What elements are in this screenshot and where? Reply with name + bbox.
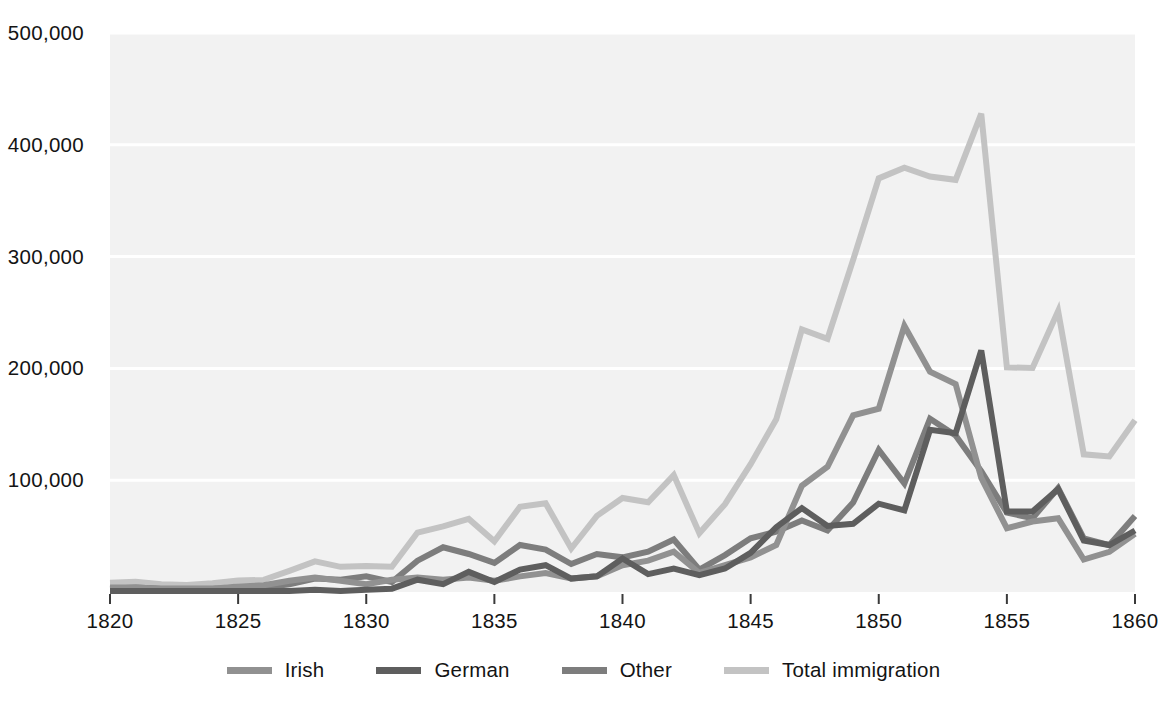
x-axis-tick-label: 1850 bbox=[855, 609, 902, 633]
x-axis: 182018251830183518401845185018551860 bbox=[0, 0, 1167, 707]
legend-item-german[interactable]: German bbox=[376, 658, 509, 682]
x-axis-tick-label: 1825 bbox=[215, 609, 262, 633]
x-axis-tick-label: 1820 bbox=[87, 609, 134, 633]
legend-label: German bbox=[434, 658, 509, 682]
legend-item-irish[interactable]: Irish bbox=[227, 658, 325, 682]
legend-swatch-icon bbox=[724, 667, 769, 674]
immigration-line-chart: 500,000400,000300,000200,000100,000 1820… bbox=[0, 0, 1167, 707]
legend-item-other[interactable]: Other bbox=[562, 658, 672, 682]
x-axis-tick-label: 1860 bbox=[1112, 609, 1159, 633]
x-axis-tick-label: 1845 bbox=[727, 609, 774, 633]
x-axis-tick-label: 1855 bbox=[983, 609, 1030, 633]
legend-label: Other bbox=[620, 658, 672, 682]
legend-swatch-icon bbox=[227, 667, 272, 674]
legend-label: Total immigration bbox=[782, 658, 940, 682]
chart-legend: IrishGermanOtherTotal immigration bbox=[0, 648, 1167, 692]
legend-swatch-icon bbox=[376, 667, 421, 674]
legend-label: Irish bbox=[285, 658, 325, 682]
legend-swatch-icon bbox=[562, 667, 607, 674]
x-axis-tick-label: 1840 bbox=[599, 609, 646, 633]
x-axis-tick-label: 1830 bbox=[343, 609, 390, 633]
x-axis-tick-label: 1835 bbox=[471, 609, 518, 633]
legend-item-total-immigration[interactable]: Total immigration bbox=[724, 658, 940, 682]
